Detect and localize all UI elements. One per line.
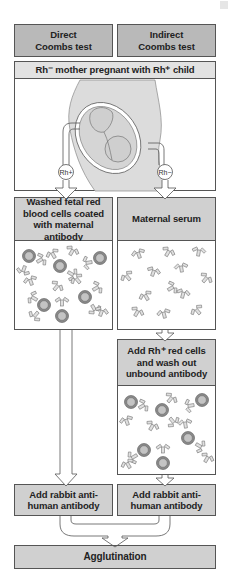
rh-negative-label: Rh− [158,169,171,176]
arrow-down-serum [156,330,174,341]
arrow-down-direct-long [55,330,77,486]
arrow-down-direct [55,180,77,199]
free-antibodies [119,245,214,320]
indirect-coated-cells [119,391,216,472]
diagram-graphics: Rh+ Rh− [0,0,230,584]
merge-arrow-inner [71,516,159,524]
rh-positive-label: Rh+ [59,169,72,176]
pregnancy-illustration [62,80,170,191]
direct-coated-cells [16,244,110,323]
arrow-down-indirect-2 [156,475,174,486]
merge-arrow-outer [60,516,170,547]
